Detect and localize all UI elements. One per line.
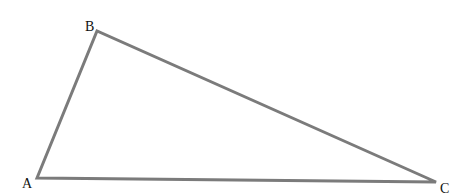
diagram-svg: A B C (0, 0, 462, 195)
vertex-label-a: A (22, 176, 33, 191)
vertex-label-b: B (85, 19, 94, 34)
triangle-abc (37, 31, 436, 182)
triangle-diagram: A B C (0, 0, 462, 195)
vertex-label-c: C (440, 181, 449, 195)
